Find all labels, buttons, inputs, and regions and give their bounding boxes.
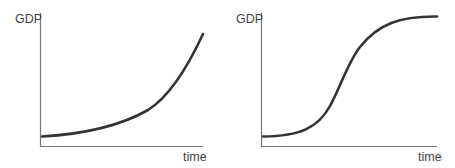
x-axis-label: time: [418, 150, 442, 164]
y-axis-label: GDP: [236, 12, 263, 26]
gdp-curve-exponential: [42, 34, 203, 137]
charts-canvas: GDP time GDP time: [0, 0, 455, 168]
chart-exponential: GDP time: [15, 12, 207, 164]
chart-s-curve: GDP time: [236, 12, 442, 164]
x-axis-label: time: [183, 150, 207, 164]
y-axis-label: GDP: [15, 12, 42, 26]
gdp-curve-s-shaped: [263, 16, 437, 136]
